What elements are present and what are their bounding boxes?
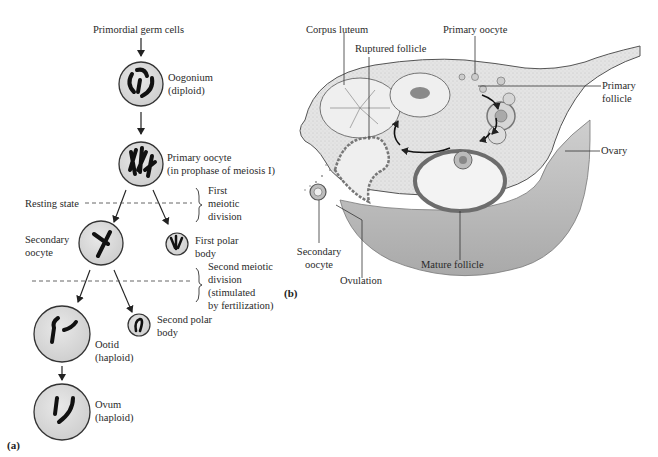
label-primary-follicle: Primary follicle (602, 79, 636, 105)
label-ovum: Ovum (haploid) (95, 398, 134, 424)
primary-follicle-line2: follicle (602, 92, 636, 105)
oogonium-name: Oogonium (168, 71, 213, 84)
label-corpus-luteum: Corpus luteum (306, 23, 368, 36)
first-division-line3: division (208, 210, 242, 223)
label-oogonium: Oogonium (diploid) (168, 71, 213, 97)
second-polar-body-line1: Second polar (157, 313, 212, 326)
label-second-meiotic-division: Second meiotic division (stimulated by f… (208, 260, 274, 312)
panel-b-ovary (300, 33, 640, 278)
label-secondary-oocyte-b: Secondary oocyte (296, 245, 342, 271)
ovum-cell (34, 384, 90, 440)
oogonium-ploidy: (diploid) (168, 84, 213, 97)
panel-b-tag: (b) (284, 287, 297, 299)
second-polar-body-cell (128, 314, 150, 336)
ovum-ploidy: (haploid) (95, 411, 134, 424)
mature-follicle (415, 151, 505, 211)
primary-oocyte-name: Primary oocyte (167, 151, 275, 164)
ovum-name: Ovum (95, 398, 134, 411)
first-division-line2: meiotic (208, 197, 242, 210)
released-secondary-oocyte (310, 184, 326, 200)
secondary-oocyte-cell (79, 221, 123, 265)
diagram-canvas (0, 0, 658, 457)
first-division-line1: First (208, 184, 242, 197)
oogonium-cell (119, 62, 163, 106)
second-division-line1: Second meiotic (208, 260, 274, 273)
label-first-polar-body: First polar body (195, 234, 238, 260)
label-first-meiotic-division: First meiotic division (208, 184, 242, 223)
label-resting-state: Resting state (25, 197, 79, 210)
secondary-oocyte-line1: Secondary (25, 233, 69, 246)
label-second-polar-body: Second polar body (157, 313, 212, 339)
panel-a-tag: (a) (7, 439, 20, 451)
label-primary-oocyte-b: Primary oocyte (443, 23, 507, 36)
primary-follicle-line1: Primary (602, 79, 636, 92)
ootid-ploidy: (haploid) (95, 351, 134, 364)
first-polar-body-cell (166, 233, 188, 255)
secondary-oocyte-line2: oocyte (25, 246, 69, 259)
second-division-line3: (stimulated (208, 286, 274, 299)
first-polar-body-line1: First polar (195, 234, 238, 247)
primary-oocyte-note: (in prophase of meiosis I) (167, 164, 275, 177)
second-polar-body-line2: body (157, 326, 212, 339)
first-polar-body-line2: body (195, 247, 238, 260)
label-ruptured-follicle: Ruptured follicle (355, 42, 426, 55)
label-ovulation: Ovulation (340, 274, 382, 287)
ootid-cell (34, 306, 90, 362)
secondary-oocyte-b-line2: oocyte (296, 258, 342, 271)
label-primary-oocyte: Primary oocyte (in prophase of meiosis I… (167, 151, 275, 177)
second-division-line4: by fertilization) (208, 299, 274, 312)
second-division-line2: division (208, 273, 274, 286)
label-ootid: Ootid (haploid) (95, 338, 134, 364)
primary-oocyte-cell (119, 142, 163, 186)
label-secondary-oocyte: Secondary oocyte (25, 233, 69, 259)
label-primordial-germ-cells: Primordial germ cells (93, 23, 184, 36)
label-mature-follicle: Mature follicle (421, 258, 484, 271)
ootid-name: Ootid (95, 338, 134, 351)
secondary-oocyte-b-line1: Secondary (296, 245, 342, 258)
label-ovary: Ovary (601, 144, 627, 157)
